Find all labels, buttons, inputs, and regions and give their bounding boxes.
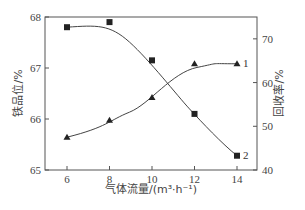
y-left-tick-label: 65 xyxy=(30,164,42,176)
y-axis-left-title: 铁品位/% xyxy=(11,69,25,116)
y-right-tick-label: 50 xyxy=(262,120,274,132)
series-markers xyxy=(64,19,241,159)
chart-canvas: 68101214 65666768 40506070 气体流量/(m³·h⁻¹)… xyxy=(0,0,305,210)
square-marker xyxy=(64,24,70,30)
series-2-label: 2 xyxy=(243,149,249,161)
y-axis-left-ticks: 65666768 xyxy=(30,11,49,176)
square-marker xyxy=(149,57,155,63)
y-left-tick-label: 66 xyxy=(30,113,42,125)
series-1-curve xyxy=(67,64,237,138)
series-curves xyxy=(67,26,237,156)
x-tick-label: 14 xyxy=(232,173,244,185)
y-right-tick-label: 60 xyxy=(262,77,274,89)
y-left-tick-label: 67 xyxy=(30,62,42,74)
triangle-marker xyxy=(191,60,198,66)
y-axis-right-title: 回收率/% xyxy=(272,69,286,116)
y-axis-right-ticks: 40506070 xyxy=(253,33,274,176)
square-marker xyxy=(234,153,240,159)
series-1-label: 1 xyxy=(243,57,249,69)
x-tick-label: 6 xyxy=(64,173,70,185)
plot-frame xyxy=(45,17,257,170)
square-marker xyxy=(107,19,113,25)
x-axis-title: 气体流量/(m³·h⁻¹) xyxy=(105,182,197,196)
series-2-curve xyxy=(67,26,237,156)
square-marker xyxy=(192,111,198,117)
triangle-marker xyxy=(106,117,113,123)
y-left-tick-label: 68 xyxy=(30,11,42,23)
y-right-tick-label: 40 xyxy=(262,164,274,176)
y-right-tick-label: 70 xyxy=(262,33,274,45)
